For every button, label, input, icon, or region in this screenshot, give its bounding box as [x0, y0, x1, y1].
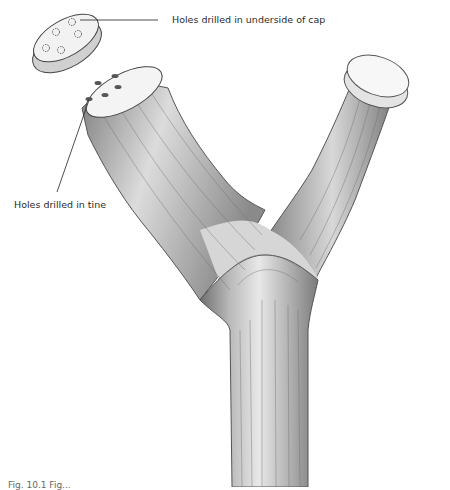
tine-leader-line [57, 100, 89, 192]
cap-holes-label: Holes drilled in underside of cap [172, 14, 325, 25]
branch-body [82, 75, 395, 487]
trunk [200, 255, 318, 487]
detached-cap [24, 4, 110, 83]
tine-holes-label: Holes drilled in tine [14, 199, 106, 210]
figure-caption: Fig. 10.1 Fig... [8, 480, 71, 490]
